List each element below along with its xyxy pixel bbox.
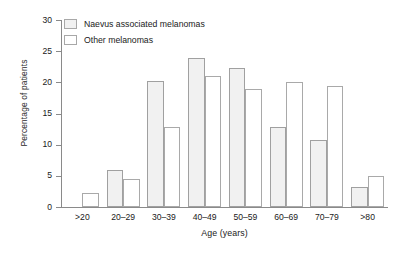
y-axis-tick — [56, 82, 61, 83]
x-axis-tick-label: 20–29 — [103, 212, 144, 222]
legend-swatch-icon-other — [64, 35, 77, 45]
y-axis-tick — [56, 145, 61, 146]
bar-naevus-3 — [188, 58, 205, 207]
bar-other-3 — [205, 76, 222, 207]
y-axis-tick-label: 30 — [12, 16, 52, 25]
x-axis-tick-label: >20 — [62, 212, 103, 222]
x-axis-tick-label: 40–49 — [184, 212, 225, 222]
y-axis-tick-label: 15 — [12, 109, 52, 118]
y-axis-tick-label: 0 — [12, 203, 52, 212]
bar-other-0 — [82, 193, 99, 207]
bar-other-5 — [286, 82, 303, 207]
legend-label-other: Other melanomas — [84, 35, 153, 45]
y-axis-tick-label: 10 — [12, 140, 52, 149]
y-axis-tick — [56, 176, 61, 177]
y-axis-tick — [56, 207, 61, 208]
bar-other-7 — [368, 176, 385, 207]
bar-other-2 — [164, 127, 181, 207]
bar-naevus-2 — [147, 81, 164, 207]
x-axis-tick-label: 70–79 — [307, 212, 348, 222]
y-axis-tick-label: 20 — [12, 78, 52, 87]
legend-item-other: Other melanomas — [64, 32, 205, 47]
x-axis-tick-label: 30–39 — [144, 212, 185, 222]
y-axis-tick-label: 25 — [12, 47, 52, 56]
legend-swatch-icon-naevus — [64, 19, 77, 29]
x-axis-tick-label: 60–69 — [266, 212, 307, 222]
bar-other-1 — [123, 179, 140, 207]
x-axis-title: Age (years) — [61, 228, 388, 238]
x-axis-tick-label: 50–59 — [225, 212, 266, 222]
x-axis-line — [61, 207, 388, 208]
bar-naevus-1 — [107, 170, 124, 207]
legend-label-naevus: Naevus associated melanomas — [84, 19, 205, 29]
legend-item-naevus: Naevus associated melanomas — [64, 16, 205, 31]
x-axis-tick-label: >80 — [347, 212, 388, 222]
y-axis-tick-label: 5 — [12, 171, 52, 180]
y-axis-tick — [56, 20, 61, 21]
plot-area — [62, 20, 388, 207]
bar-other-6 — [327, 86, 344, 207]
bar-chart: Percentage of patients 051015202530 >202… — [0, 0, 410, 257]
bar-naevus-4 — [229, 68, 246, 207]
bar-naevus-7 — [351, 187, 368, 207]
bar-naevus-6 — [310, 140, 327, 207]
chart-legend: Naevus associated melanomas Other melano… — [64, 16, 205, 48]
y-axis-tick — [56, 114, 61, 115]
bar-naevus-5 — [270, 127, 287, 207]
bar-other-4 — [245, 89, 262, 207]
y-axis-tick — [56, 51, 61, 52]
